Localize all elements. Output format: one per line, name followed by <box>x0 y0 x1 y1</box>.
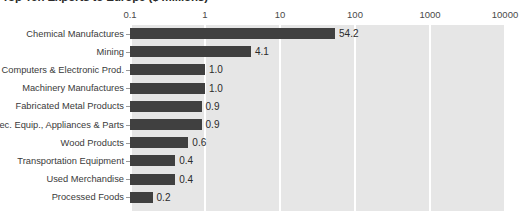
x-tick-label: 100 <box>347 9 363 20</box>
gridline <box>504 25 506 211</box>
bar-value-label: 0.9 <box>206 101 220 112</box>
bar <box>130 64 205 75</box>
bar-value-label: 54.2 <box>339 28 358 39</box>
gridline <box>279 25 281 211</box>
category-label: Fabricated Metal Products <box>15 101 124 112</box>
chart-title: Top Ten Exports to Europe ($ millions) <box>2 0 208 3</box>
category-label: Processed Foods <box>52 192 124 203</box>
bar <box>130 28 335 39</box>
bar-value-label: 0.4 <box>179 155 193 166</box>
bar <box>130 119 202 130</box>
plot-area: 54.24.11.01.00.90.90.60.40.40.2 <box>130 25 505 211</box>
bar-value-label: 0.2 <box>157 192 171 203</box>
bar <box>130 155 175 166</box>
x-tick-label: 0.1 <box>123 9 136 20</box>
bar <box>130 192 153 203</box>
bar <box>130 83 205 94</box>
bar <box>130 174 175 185</box>
category-label: Computers & Electronic Prod. <box>2 65 124 76</box>
x-tick-label: 1 <box>202 9 207 20</box>
category-label: Machinery Manufactures <box>22 83 124 94</box>
bar <box>130 46 251 57</box>
category-label: Transportation Equipment <box>17 156 124 167</box>
bar <box>130 101 202 112</box>
x-tick-label: 10 <box>275 9 286 20</box>
category-axis-labels: Chemical ManufacturesMiningComputers & E… <box>0 25 127 211</box>
category-label: Used Merchandise <box>46 174 124 185</box>
category-label: Mining <box>97 47 124 58</box>
bar <box>130 137 188 148</box>
bar-value-label: 1.0 <box>209 83 223 94</box>
gridline <box>429 25 431 211</box>
x-tick-label: 1000 <box>419 9 440 20</box>
x-axis-tick-labels: 0.1110100100010000 <box>0 9 520 25</box>
bar-value-label: 0.9 <box>206 119 220 130</box>
bar-value-label: 4.1 <box>255 46 269 57</box>
bar-value-label: 0.6 <box>192 137 206 148</box>
bar-value-label: 0.4 <box>179 174 193 185</box>
gridline <box>354 25 356 211</box>
bar-value-label: 1.0 <box>209 64 223 75</box>
category-label: Wood Products <box>61 138 124 149</box>
category-label: Chemical Manufactures <box>26 29 124 40</box>
x-tick-label: 10000 <box>492 9 518 20</box>
bar-chart: Top Ten Exports to Europe ($ millions) 0… <box>0 0 520 214</box>
category-label: Elec. Equip., Appliances & Parts <box>0 120 124 131</box>
